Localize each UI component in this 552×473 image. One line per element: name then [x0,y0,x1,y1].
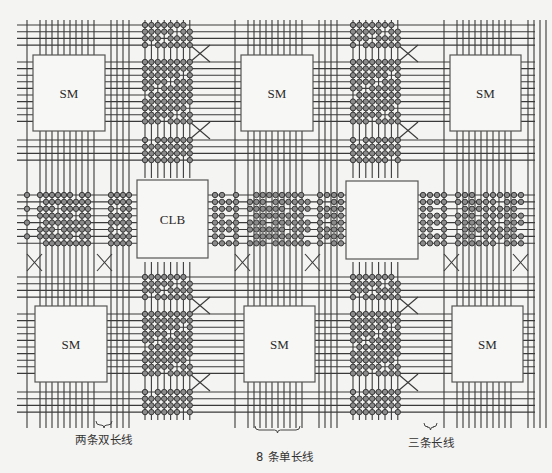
sm-bottom-center-label: SM [270,337,289,352]
caption-long-lines: 三条长线 [408,434,454,450]
clb-left-label: CLB [160,212,186,227]
caption-double-length-lines: 两条双长线 [75,431,133,447]
double-length-lines-brace [96,421,112,428]
clb-right [346,181,418,259]
long-lines-brace [424,423,437,430]
sm-top-center-label: SM [268,86,287,101]
sm-bottom-right-label: SM [478,337,497,352]
fpga-interconnect-diagram: SMSMSMSMSMSMCLB [0,0,552,473]
sm-top-left-label: SM [60,86,79,101]
caption-single-length-lines: 8 条单长线 [256,448,314,464]
sm-top-right-label: SM [476,86,495,101]
sm-bottom-left-label: SM [62,337,81,352]
